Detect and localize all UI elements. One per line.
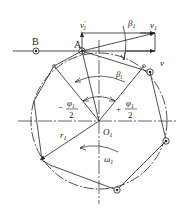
point-b-dot — [35, 50, 37, 52]
label-beta1: β1 — [127, 18, 135, 29]
label-v: v — [160, 58, 164, 68]
v1-vector — [82, 33, 155, 51]
label-a: A — [74, 39, 82, 50]
label-pos-den: 2 — [128, 110, 133, 120]
label-betai: βi — [115, 69, 122, 80]
label-neg-sign: − — [58, 102, 63, 112]
label-b: B — [32, 36, 39, 47]
label-r1: r1 — [60, 130, 67, 141]
label-v1-prime: v'1 — [80, 20, 86, 31]
label-neg-phi: φ1 — [67, 98, 75, 109]
link-a-left — [54, 51, 82, 66]
label-pos-phi: φ1 — [126, 98, 134, 109]
bottom-joint-dot — [116, 189, 119, 192]
phi-arrow-right — [109, 97, 115, 101]
right-arm — [150, 72, 166, 140]
kinematic-diagram: B A v'1 v1 v β1 βi − φ1 2 + φ1 2 r1 O1 ω… — [0, 0, 186, 218]
label-o1: O1 — [103, 127, 113, 138]
label-omega1: ω1 — [104, 154, 113, 165]
diagram-svg: B A v'1 v1 v β1 βi − φ1 2 + φ1 2 r1 O1 ω… — [0, 0, 186, 218]
label-pos-sign: + — [116, 104, 121, 114]
beta1-arrow — [121, 52, 125, 60]
radius-r1 — [40, 121, 99, 160]
phi-arrow-left — [83, 97, 89, 101]
label-v1: v1 — [150, 20, 157, 31]
bottom-link — [117, 141, 166, 190]
label-neg-den: 2 — [69, 110, 74, 120]
